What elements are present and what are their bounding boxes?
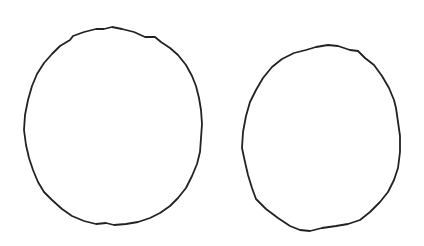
left-oval bbox=[24, 27, 202, 225]
drawing-canvas bbox=[0, 0, 424, 246]
right-oval bbox=[242, 45, 400, 231]
